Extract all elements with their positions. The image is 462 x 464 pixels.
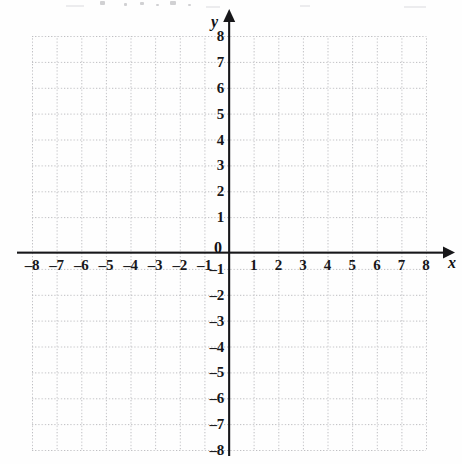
x-tick-label: –6: [74, 258, 89, 273]
origin-tick-label: 0: [214, 240, 222, 256]
y-axis-label: y: [211, 14, 218, 30]
x-tick-label: 5: [348, 258, 355, 273]
x-tick-label: –4: [123, 258, 138, 273]
y-tick-label: 4: [198, 132, 224, 147]
y-tick-label: 2: [198, 184, 224, 199]
y-tick-label: –3: [196, 313, 224, 328]
x-tick-label: –7: [49, 258, 64, 273]
x-tick-label: 2: [275, 258, 282, 273]
x-tick-label: 4: [324, 258, 331, 273]
y-tick-label: –6: [196, 391, 224, 406]
x-tick-label: –3: [148, 258, 163, 273]
y-tick-label: –2: [196, 287, 224, 302]
y-axis-line: [223, 9, 235, 456]
x-tick-label: 8: [422, 258, 429, 273]
x-tick-label: 7: [398, 258, 405, 273]
x-tick-label: –2: [172, 258, 187, 273]
y-tick-label: –8: [196, 443, 224, 458]
y-tick-label: 7: [198, 54, 224, 69]
y-tick-label: 6: [198, 80, 224, 95]
y-tick-label: 3: [198, 158, 224, 173]
x-tick-label: –8: [25, 258, 40, 273]
coordinate-grid-figure: –8 –7 –6 –5 –4 –3 –2 –1 1 2 3 4 5 6 7 8 …: [0, 0, 462, 464]
x-tick-label: –5: [99, 258, 114, 273]
y-tick-label: –7: [196, 417, 224, 432]
grid-and-axes: [0, 0, 462, 464]
y-tick-label: 5: [198, 106, 224, 121]
y-tick-label: –4: [196, 339, 224, 354]
y-tick-label: 8: [198, 29, 224, 44]
y-tick-label: –1: [196, 261, 224, 276]
x-tick-label: 3: [299, 258, 306, 273]
x-tick-label: 6: [373, 258, 380, 273]
x-tick-label: 1: [250, 258, 257, 273]
y-tick-label: –5: [196, 365, 224, 380]
y-tick-label: 1: [198, 210, 224, 225]
x-axis-label: x: [448, 255, 456, 271]
